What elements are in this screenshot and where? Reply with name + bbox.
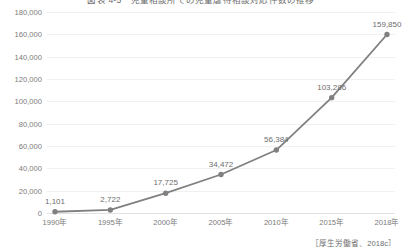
data-point-marker [108,207,113,212]
chart-title: 図表 4-5 児童相談所での児童虐待相談対応件数の推移 [0,0,402,5]
data-point-marker [163,191,168,196]
data-point-marker [274,147,279,152]
figure-container: 図表 4-5 児童相談所での児童虐待相談対応件数の推移 1,1012,72217… [0,0,402,250]
source-note: ［厚生労働省、2018c］ [311,237,396,248]
y-axis-tick-label: 180,000 [0,8,42,17]
y-axis-tick-label: 160,000 [0,30,42,39]
data-point-label: 34,472 [189,160,253,169]
x-axis-tick-label: 2010年 [246,216,306,227]
data-point-marker [218,172,223,177]
data-point-marker [384,32,389,37]
y-axis-tick-label: 140,000 [0,52,42,61]
plot-area: 1,1012,72217,72534,47256,384103,286159,8… [47,12,395,213]
data-point-label: 2,722 [78,195,142,204]
data-point-label: 17,725 [134,178,198,187]
y-axis-tick-label: 60,000 [0,142,42,151]
data-point-label: 56,384 [244,135,308,144]
series-line-chart [47,12,395,213]
y-axis-tick-label: 100,000 [0,97,42,106]
x-axis-tick-label: 1995年 [80,216,140,227]
series-line [55,35,387,212]
y-axis-tick-label: 40,000 [0,164,42,173]
data-point-label: 159,850 [355,20,402,29]
data-point-label: 103,286 [300,83,364,92]
series-markers [52,32,389,215]
x-axis-tick-label: 2018年 [357,216,402,227]
x-axis-tick-label: 2005年 [191,216,251,227]
x-axis-ticks: 1990年1995年2000年2005年2010年2015年2018年 [47,216,395,232]
x-axis-tick-label: 2000年 [136,216,196,227]
data-point-marker [52,209,57,214]
data-point-marker [329,95,334,100]
x-axis-tick-label: 1990年 [25,216,85,227]
y-axis-tick-label: 20,000 [0,186,42,195]
gridline [47,213,395,214]
y-axis-tick-label: 80,000 [0,119,42,128]
x-axis-tick-label: 2015年 [302,216,362,227]
y-axis-tick-label: 120,000 [0,75,42,84]
